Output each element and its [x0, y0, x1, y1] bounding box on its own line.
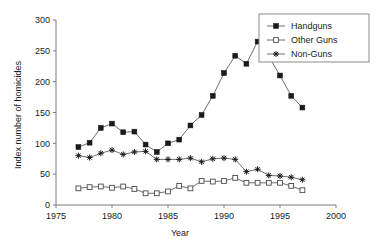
y-tick-label: 200	[35, 77, 50, 87]
data-point	[121, 130, 126, 135]
y-tick-label: 300	[35, 15, 50, 25]
data-point	[221, 155, 227, 161]
data-point	[131, 149, 137, 155]
data-point	[109, 147, 115, 153]
data-point	[76, 186, 81, 191]
data-point	[98, 150, 104, 156]
chart-plot-area: 0501001502002503001975198019851990199520…	[0, 0, 378, 249]
data-point	[278, 73, 283, 78]
x-tick-label: 1990	[214, 211, 234, 221]
data-point	[266, 172, 272, 178]
data-point	[132, 129, 137, 134]
data-point	[255, 166, 261, 172]
legend-label: Non-Guns	[291, 49, 333, 59]
homicides-index-line-chart: 0501001502002503001975198019851990199520…	[0, 0, 378, 249]
data-point	[299, 177, 305, 183]
data-point	[278, 180, 283, 185]
data-point	[188, 123, 193, 128]
legend-label: Other Guns	[291, 35, 338, 45]
data-point	[300, 188, 305, 193]
data-point	[222, 179, 227, 184]
data-point	[143, 191, 148, 196]
data-point	[154, 191, 159, 196]
data-point	[87, 185, 92, 190]
data-point	[187, 155, 193, 161]
data-point	[210, 179, 215, 184]
data-point	[120, 151, 126, 157]
y-tick-label: 150	[35, 108, 50, 118]
data-point	[244, 180, 249, 185]
legend-marker	[274, 24, 279, 29]
data-point	[199, 179, 204, 184]
data-point	[199, 113, 204, 118]
y-tick-label: 50	[40, 169, 50, 179]
data-point	[98, 184, 103, 189]
data-point	[289, 183, 294, 188]
data-point	[210, 93, 215, 98]
data-point	[121, 184, 126, 189]
data-point	[177, 183, 182, 188]
data-point	[188, 186, 193, 191]
data-point	[176, 156, 182, 162]
data-point	[243, 169, 249, 175]
series-non-guns	[75, 147, 305, 183]
data-point	[233, 175, 238, 180]
legend-label: Handguns	[291, 21, 333, 31]
data-point	[132, 187, 137, 192]
data-point	[289, 93, 294, 98]
data-point	[143, 142, 148, 147]
data-point	[165, 156, 171, 162]
y-axis-title: Index number of homicides	[13, 40, 23, 190]
data-point	[266, 180, 271, 185]
data-point	[222, 71, 227, 76]
data-point	[154, 156, 160, 162]
data-point	[154, 150, 159, 155]
series-other-guns	[76, 175, 305, 195]
data-point	[177, 137, 182, 142]
x-tick-label: 1995	[270, 211, 290, 221]
data-point	[300, 105, 305, 110]
data-point	[76, 145, 81, 150]
y-tick-label: 0	[45, 200, 50, 210]
x-tick-label: 1975	[46, 211, 66, 221]
data-point	[233, 53, 238, 58]
data-point	[199, 159, 205, 165]
data-point	[288, 174, 294, 180]
legend-marker	[274, 38, 279, 43]
y-tick-label: 250	[35, 46, 50, 56]
data-point	[110, 185, 115, 190]
y-tick-label: 100	[35, 139, 50, 149]
series-group	[75, 39, 305, 196]
chart-legend[interactable]: HandgunsOther GunsNon-Guns	[259, 14, 369, 62]
data-point	[143, 148, 149, 154]
x-tick-label: 1985	[158, 211, 178, 221]
data-point	[75, 153, 81, 159]
data-point	[166, 189, 171, 194]
x-axis-title: Year	[120, 228, 240, 238]
data-point	[166, 141, 171, 146]
data-point	[110, 121, 115, 126]
data-point	[87, 140, 92, 145]
x-tick-label: 2000	[326, 211, 346, 221]
data-point	[232, 156, 238, 162]
data-point	[210, 156, 216, 162]
data-point	[255, 180, 260, 185]
data-point	[244, 61, 249, 66]
data-point	[277, 173, 283, 179]
x-tick-label: 1980	[102, 211, 122, 221]
data-point	[98, 126, 103, 131]
data-point	[87, 155, 93, 161]
legend-marker	[273, 51, 279, 57]
